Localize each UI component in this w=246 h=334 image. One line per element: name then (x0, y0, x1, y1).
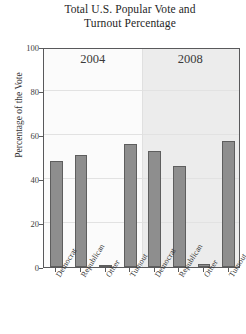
plot-area: 2004 2008 (43, 48, 240, 268)
panel-divider (142, 49, 143, 267)
y-tick-label-0: 0 (14, 263, 39, 273)
bar-2008-turnout (222, 141, 235, 267)
bar-2004-democrat (50, 161, 63, 267)
chart-title: Total U.S. Popular Vote and Turnout Perc… (18, 2, 242, 30)
y-tick-mark-0 (39, 268, 43, 269)
panel-label-2008: 2008 (142, 52, 240, 67)
y-axis-label: Percentage of the Vote (14, 40, 24, 190)
y-tick-label-20: 20 (14, 219, 39, 229)
panel-label-2004: 2004 (44, 52, 142, 67)
bar-2004-turnout (124, 144, 137, 267)
chart-title-line-1: Total U.S. Popular Vote and (18, 2, 242, 16)
bar-2008-democrat (148, 151, 161, 267)
chart-figure: Total U.S. Popular Vote and Turnout Perc… (0, 0, 246, 334)
chart-title-line-2: Turnout Percentage (18, 16, 242, 30)
